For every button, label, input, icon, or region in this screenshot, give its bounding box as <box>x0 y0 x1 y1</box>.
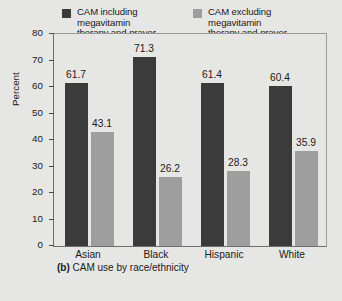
y-axis-tick-label: 80 <box>32 26 43 39</box>
bar-value-label: 61.7 <box>66 69 86 80</box>
y-axis-tick-label: 70 <box>32 53 43 66</box>
bar-value-label: 71.3 <box>134 43 154 54</box>
bar-group: 61.428.3 <box>190 34 258 246</box>
y-axis-tick: 0 <box>1 245 54 246</box>
y-axis-tick-label: 0 <box>38 238 43 251</box>
y-axis-title: Percent <box>10 72 21 106</box>
legend-swatch-cam-including <box>62 9 71 18</box>
y-axis-tick: 40 <box>1 139 54 140</box>
caption-tag: (b) <box>57 262 70 273</box>
bar: 35.9 <box>295 151 318 246</box>
bar-value-label: 43.1 <box>92 118 112 129</box>
y-axis-tick-label: 40 <box>32 132 43 145</box>
bar: 61.7 <box>65 83 88 247</box>
y-axis-tick: 50 <box>1 113 54 114</box>
bar-value-label: 26.2 <box>160 163 180 174</box>
bar-value-label: 60.4 <box>270 72 290 83</box>
bar-value-label: 61.4 <box>202 69 222 80</box>
bar-group: 61.743.1 <box>54 34 122 246</box>
legend-swatch-cam-excluding <box>193 9 202 18</box>
bar: 60.4 <box>269 86 292 246</box>
y-axis-tick-label: 30 <box>32 159 43 172</box>
bar-value-label: 35.9 <box>296 137 316 148</box>
bar-value-label: 28.3 <box>228 157 248 168</box>
x-axis-label: Hispanic <box>190 249 258 260</box>
bar: 26.2 <box>159 177 182 246</box>
bar: 71.3 <box>133 57 156 246</box>
y-axis-tick: 20 <box>1 192 54 193</box>
bar: 61.4 <box>201 83 224 246</box>
y-axis-tick: 80 <box>1 33 54 34</box>
y-axis-tick-label: 60 <box>32 79 43 92</box>
plot-area: 01020304050607080 61.743.171.326.261.428… <box>54 34 326 246</box>
y-axis-tick-label: 10 <box>32 212 43 225</box>
x-axis-label: Asian <box>54 249 122 260</box>
caption-text: CAM use by race/ethnicity <box>73 262 189 273</box>
y-axis-tick: 60 <box>1 86 54 87</box>
y-axis-tick: 10 <box>1 219 54 220</box>
y-axis-tick: 30 <box>1 166 54 167</box>
figure-caption: (b) CAM use by race/ethnicity <box>57 262 189 273</box>
bar: 28.3 <box>227 171 250 246</box>
x-axis-label: Black <box>122 249 190 260</box>
y-axis-tick-label: 50 <box>32 106 43 119</box>
bar-group: 71.326.2 <box>122 34 190 246</box>
x-axis-label: White <box>258 249 326 260</box>
y-axis-tick-label: 20 <box>32 185 43 198</box>
bar: 43.1 <box>91 132 114 246</box>
y-axis-tick: 70 <box>1 60 54 61</box>
bar-group: 60.435.9 <box>258 34 326 246</box>
chart-figure: CAM including megavitamin therapy and pr… <box>0 0 342 301</box>
